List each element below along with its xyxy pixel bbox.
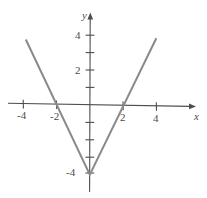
y-tick-label-2: 2 — [75, 65, 81, 76]
y-tick-label-neg4: -4 — [66, 167, 75, 178]
x-tick-label-neg2: -2 — [50, 111, 59, 122]
graph-figure: -4 -2 2 4 4 2 -4 x y — [0, 0, 207, 198]
x-tick-label-2: 2 — [120, 112, 126, 123]
x-tick-label-neg4: -4 — [17, 110, 26, 121]
x-axis — [8, 103, 196, 109]
x-axis-label: x — [194, 111, 199, 122]
y-axis-label: y — [82, 10, 87, 21]
y-tick-label-4: 4 — [75, 30, 81, 41]
y-axis — [87, 13, 93, 193]
absolute-value-curve — [26, 38, 157, 174]
coordinate-plane — [0, 0, 207, 198]
x-tick-label-4: 4 — [153, 113, 159, 124]
